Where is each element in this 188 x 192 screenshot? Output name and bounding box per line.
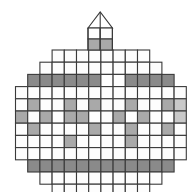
grid-cell-empty bbox=[40, 123, 52, 135]
grid-cell-empty bbox=[113, 74, 125, 86]
grid-cell-mid bbox=[162, 99, 174, 111]
grid-cell-empty bbox=[174, 135, 186, 147]
grid-cell-dark bbox=[113, 160, 125, 172]
grid-cell-dark bbox=[77, 74, 89, 86]
grid-cell-mid bbox=[100, 39, 112, 50]
grid-cell-empty bbox=[125, 50, 137, 62]
grid-cell-dark bbox=[150, 74, 162, 86]
grid-cell-mid bbox=[64, 135, 76, 147]
grid-cell-mid bbox=[125, 135, 137, 147]
grid-cell-empty bbox=[64, 148, 76, 160]
grid-cell-empty bbox=[101, 184, 113, 192]
grid-row bbox=[52, 184, 150, 192]
grid-cell-empty bbox=[125, 172, 137, 184]
grid-cell-empty bbox=[150, 99, 162, 111]
grid-cell-empty bbox=[113, 62, 125, 74]
grid-cell-empty bbox=[40, 172, 52, 184]
grid-cell-empty bbox=[77, 172, 89, 184]
grid-cell-empty bbox=[64, 87, 76, 99]
grid-cell-mid bbox=[89, 99, 101, 111]
grid-cell-dark bbox=[28, 74, 40, 86]
grid-cell-mid bbox=[125, 99, 137, 111]
grid-cell-empty bbox=[40, 148, 52, 160]
grid-cell-empty bbox=[101, 74, 113, 86]
grid-cell-empty bbox=[162, 87, 174, 99]
grid-cell-empty bbox=[28, 135, 40, 147]
grid-cell-empty bbox=[138, 62, 150, 74]
grid-cell-empty bbox=[16, 99, 28, 111]
grid-cell-empty bbox=[64, 50, 76, 62]
grid-cell-mid bbox=[16, 111, 28, 123]
grid-cell-empty bbox=[138, 99, 150, 111]
grid-cell-light bbox=[174, 111, 186, 123]
grid-cell-dark bbox=[64, 160, 76, 172]
grid-row bbox=[16, 123, 187, 135]
grid-pattern-svg bbox=[0, 0, 188, 192]
grid-cell-empty bbox=[64, 172, 76, 184]
grid-cell-mid bbox=[88, 39, 100, 50]
grid-cell-empty bbox=[101, 172, 113, 184]
grid-cell-empty bbox=[101, 148, 113, 160]
grid-cell-empty bbox=[89, 50, 101, 62]
grid-cell-mid bbox=[113, 111, 125, 123]
grid-cell-mid bbox=[64, 111, 76, 123]
grid-cell-mid bbox=[28, 123, 40, 135]
grid-cell-dark bbox=[28, 160, 40, 172]
grid-cell-empty bbox=[162, 148, 174, 160]
grid-cell-empty bbox=[40, 62, 52, 74]
grid-row bbox=[16, 148, 187, 160]
grid-cell-empty bbox=[40, 135, 52, 147]
grid-cell-empty bbox=[113, 87, 125, 99]
grid-cell-mid bbox=[89, 123, 101, 135]
grid-cell-empty bbox=[89, 111, 101, 123]
grid-cell-empty bbox=[125, 184, 137, 192]
grid-cell-empty bbox=[28, 87, 40, 99]
grid-cell-empty bbox=[100, 28, 112, 39]
grid-cell-dark bbox=[138, 74, 150, 86]
grid-cell-empty bbox=[101, 111, 113, 123]
grid-cell-empty bbox=[101, 123, 113, 135]
grid-cell-empty bbox=[113, 148, 125, 160]
diagram-stage bbox=[0, 0, 188, 192]
diagram-canvas bbox=[0, 0, 188, 192]
grid-cell-empty bbox=[101, 62, 113, 74]
grid-cell-empty bbox=[52, 135, 64, 147]
grid-cell-empty bbox=[16, 87, 28, 99]
grid-cell-empty bbox=[138, 172, 150, 184]
grid-row bbox=[16, 135, 187, 147]
grid-cell-empty bbox=[138, 123, 150, 135]
grid-cell-mid bbox=[64, 99, 76, 111]
grid-row bbox=[40, 62, 162, 74]
grid-cell-empty bbox=[89, 87, 101, 99]
grid-row bbox=[28, 74, 174, 86]
tower-spire-layer bbox=[88, 12, 112, 50]
grid-cell-dark bbox=[77, 160, 89, 172]
grid-cell-mid bbox=[28, 99, 40, 111]
grid-cell-empty bbox=[113, 135, 125, 147]
grid-cells-layer bbox=[16, 50, 187, 192]
grid-cell-dark bbox=[150, 160, 162, 172]
grid-cell-empty bbox=[16, 135, 28, 147]
grid-cell-empty bbox=[138, 50, 150, 62]
grid-row bbox=[16, 99, 187, 111]
grid-cell-empty bbox=[150, 111, 162, 123]
grid-cell-dark bbox=[64, 74, 76, 86]
grid-cell-empty bbox=[113, 172, 125, 184]
grid-cell-empty bbox=[125, 111, 137, 123]
grid-cell-empty bbox=[16, 123, 28, 135]
grid-cell-mid bbox=[138, 111, 150, 123]
grid-cell-empty bbox=[150, 123, 162, 135]
grid-cell-empty bbox=[150, 172, 162, 184]
grid-cell-empty bbox=[150, 135, 162, 147]
grid-cell-empty bbox=[77, 184, 89, 192]
grid-cell-empty bbox=[52, 123, 64, 135]
grid-cell-empty bbox=[52, 111, 64, 123]
grid-cell-empty bbox=[125, 87, 137, 99]
grid-row bbox=[52, 50, 150, 62]
grid-cell-empty bbox=[52, 87, 64, 99]
grid-cell-empty bbox=[138, 148, 150, 160]
grid-cell-empty bbox=[89, 62, 101, 74]
grid-cell-empty bbox=[64, 123, 76, 135]
grid-row bbox=[28, 160, 174, 172]
grid-cell-empty bbox=[101, 50, 113, 62]
